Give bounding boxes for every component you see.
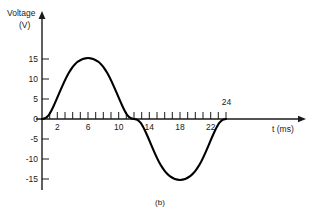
y-axis-title-line1: Voltage (7, 8, 36, 18)
x-axis-arrowhead (298, 116, 306, 122)
figure-container: 15 10 5 0 -5 -10 -15 (0, 0, 320, 214)
x-tick-label-24: 24 (222, 97, 232, 107)
y-tick-label-10: 10 (29, 74, 39, 84)
y-axis-title-line2: (V) (19, 20, 31, 30)
y-tick-label-minus10: -10 (26, 154, 39, 164)
y-tick-label-5: 5 (33, 94, 38, 104)
x-tick-label-2: 2 (55, 122, 60, 132)
x-tick-label-18: 18 (175, 122, 185, 132)
y-tick-label-15: 15 (29, 54, 39, 64)
x-axis-ticks (50, 112, 226, 119)
x-tick-label-6: 6 (86, 122, 91, 132)
y-axis (39, 11, 46, 190)
figure-caption: (b) (155, 198, 165, 207)
voltage-vs-time-chart: 15 10 5 0 -5 -10 -15 (0, 0, 320, 214)
y-axis-arrowhead (39, 11, 46, 19)
y-tick-label-minus15: -15 (26, 174, 39, 184)
y-tick-label-0: 0 (33, 114, 38, 124)
x-axis (36, 116, 306, 122)
y-tick-label-minus5: -5 (30, 134, 38, 144)
x-axis-title: t (ms) (272, 124, 294, 134)
y-axis-tick-labels: 15 10 5 0 -5 -10 -15 (26, 54, 39, 184)
x-tick-label-10: 10 (114, 122, 124, 132)
